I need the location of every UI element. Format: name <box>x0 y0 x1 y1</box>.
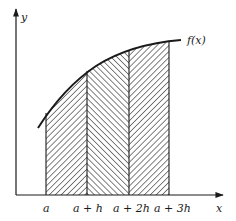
tick-label-a: a <box>43 202 50 215</box>
y-axis-label: y <box>20 11 28 24</box>
hatched-area <box>46 42 169 195</box>
trapezoid-rule-diagram: y x f(x) a a + h a + 2h a + 3h <box>0 0 236 221</box>
curve-label: f(x) <box>186 34 206 47</box>
tick-label-a-plus-2h: a + 2h <box>113 202 150 215</box>
strip-2 <box>87 51 129 195</box>
strip-3 <box>129 42 169 195</box>
tick-label-a-plus-h: a + h <box>73 202 103 215</box>
strip-1 <box>46 71 87 195</box>
tick-label-a-plus-3h: a + 3h <box>154 202 191 215</box>
x-axis-label: x <box>216 202 223 215</box>
